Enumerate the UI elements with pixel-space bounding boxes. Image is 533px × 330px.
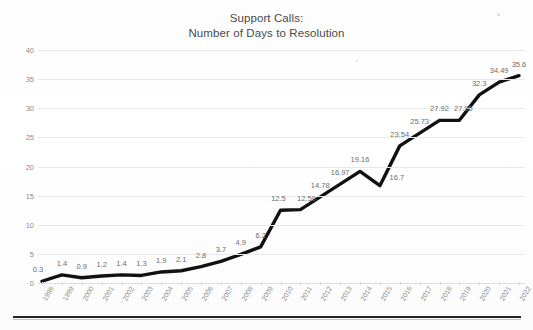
data-label-2003: 1.3 — [136, 259, 146, 268]
x-axis-tick-2011: 2011 — [300, 285, 314, 302]
scan-bottom-rule-shadow — [13, 319, 521, 320]
line-chart: Support Calls: Number of Days to Resolut… — [0, 0, 533, 330]
gridline-0 — [38, 283, 525, 284]
data-label-2001: 1.2 — [96, 260, 106, 269]
gridline-10 — [38, 225, 525, 226]
scan-speck-1 — [121, 301, 123, 303]
x-axis-tick-2021: 2021 — [498, 285, 512, 302]
scan-bottom-rule — [13, 316, 521, 318]
y-axis-tick-25: 25 — [8, 133, 34, 142]
data-label-1999: 1.4 — [57, 259, 67, 268]
y-axis-tick-10: 10 — [8, 221, 34, 230]
x-axis-tickmark-2004 — [161, 282, 162, 285]
y-axis: 0510152025303540 — [6, 50, 34, 283]
x-axis-tickmark-2002 — [122, 282, 123, 285]
x-axis-tickmark-2003 — [141, 282, 142, 285]
chart-title-line-1: Support Calls: — [0, 11, 533, 26]
data-label-2009: 6.2 — [255, 231, 265, 240]
data-label-2011: 12.59 — [297, 194, 316, 203]
x-axis-tickmark-2014 — [360, 282, 361, 285]
data-label-2007: 3.7 — [216, 245, 226, 254]
x-axis-tickmark-2017 — [420, 282, 421, 285]
x-axis-tickmark-2015 — [380, 282, 381, 285]
x-axis-tickmark-2019 — [459, 282, 460, 285]
y-axis-tick-35: 35 — [8, 75, 34, 84]
x-axis-tick-2006: 2006 — [200, 285, 214, 302]
x-axis-tickmark-2010 — [281, 282, 282, 285]
x-axis-tickmark-2020 — [479, 282, 480, 285]
y-axis-tick-40: 40 — [8, 46, 34, 55]
x-axis-tick-2002: 2002 — [121, 285, 135, 302]
x-axis-tickmark-2008 — [241, 282, 242, 285]
x-axis-tickmark-2018 — [440, 282, 441, 285]
x-axis-tickmark-2006 — [201, 282, 202, 285]
x-axis-tick-2000: 2000 — [81, 285, 95, 302]
x-axis-tick-2001: 2001 — [101, 285, 115, 302]
gridline-40 — [38, 50, 525, 51]
data-label-1998: 0.3 — [33, 265, 43, 274]
x-axis-tick-1999: 1999 — [61, 285, 75, 302]
x-axis-tick-1998: 1998 — [41, 285, 55, 302]
gridline-30 — [38, 108, 525, 109]
y-axis-tick-15: 15 — [8, 192, 34, 201]
data-label-2020: 32.3 — [472, 79, 487, 88]
data-label-2013: 16.97 — [331, 168, 350, 177]
gridline-25 — [38, 137, 525, 138]
x-axis-tickmark-2011 — [300, 282, 301, 285]
x-axis-tickmark-2009 — [261, 282, 262, 285]
y-axis-tick-5: 5 — [8, 250, 34, 259]
data-label-2002: 1.4 — [116, 259, 126, 268]
data-label-2004: 1.9 — [156, 256, 166, 265]
data-label-2021: 34.49 — [490, 66, 509, 75]
x-axis-tickmark-2016 — [400, 282, 401, 285]
data-label-2006: 2.8 — [196, 251, 206, 260]
x-axis-tick-2004: 2004 — [160, 285, 174, 302]
x-axis-tick-2019: 2019 — [459, 285, 473, 302]
x-axis-tick-2009: 2009 — [260, 285, 274, 302]
x-axis-tick-2008: 2008 — [240, 285, 254, 302]
x-axis-tickmark-2001 — [102, 282, 103, 285]
x-axis-tickmark-2005 — [181, 282, 182, 285]
x-axis-tick-2020: 2020 — [478, 285, 492, 302]
data-label-2018: 27.92 — [430, 104, 449, 113]
gridline-35 — [38, 79, 525, 80]
x-axis-tick-2012: 2012 — [319, 285, 333, 302]
x-axis-tickmark-2013 — [340, 282, 341, 285]
scan-speck-2 — [356, 60, 358, 62]
data-label-2010: 12.5 — [271, 194, 286, 203]
x-axis-tick-2016: 2016 — [399, 285, 413, 302]
data-label-2017: 25.73 — [410, 117, 429, 126]
data-label-2015: 16.7 — [390, 173, 405, 182]
chart-title-line-2: Number of Days to Resolution — [0, 26, 533, 41]
x-axis-tick-2005: 2005 — [180, 285, 194, 302]
scan-speck-0 — [497, 13, 500, 16]
data-label-2000: 0.9 — [77, 262, 87, 271]
x-axis-tick-2013: 2013 — [339, 285, 353, 302]
x-axis-tick-2007: 2007 — [220, 285, 234, 302]
data-label-2016: 23.54 — [390, 130, 409, 139]
data-label-2008: 4.9 — [236, 238, 246, 247]
x-axis-tick-2017: 2017 — [419, 285, 433, 302]
x-axis-tickmark-2000 — [82, 282, 83, 285]
x-axis-tick-2014: 2014 — [359, 285, 373, 302]
x-axis: 1998199920002001200220032004200520062007… — [38, 285, 525, 327]
data-label-2012: 14.78 — [311, 181, 330, 190]
x-axis-tickmark-2007 — [221, 282, 222, 285]
gridline-5 — [38, 254, 525, 255]
plot-area: 0.31.40.91.21.41.31.92.12.83.74.96.212.5… — [38, 50, 525, 283]
x-axis-tick-2018: 2018 — [439, 285, 453, 302]
gridline-20 — [38, 167, 525, 168]
x-axis-tick-2010: 2010 — [280, 285, 294, 302]
data-label-2022: 35.6 — [512, 60, 527, 69]
y-axis-tick-0: 0 — [8, 279, 34, 288]
y-axis-tick-20: 20 — [8, 163, 34, 172]
chart-title: Support Calls: Number of Days to Resolut… — [0, 11, 533, 41]
data-label-2019: 27.95 — [454, 104, 473, 113]
x-axis-tickmark-2012 — [320, 282, 321, 285]
x-axis-tick-2003: 2003 — [141, 285, 155, 302]
x-axis-tickmark-2021 — [499, 282, 500, 285]
x-axis-tickmark-1999 — [62, 282, 63, 285]
data-label-2014: 19.16 — [351, 155, 370, 164]
x-axis-tickmark-1998 — [42, 282, 43, 285]
x-axis-tick-2022: 2022 — [518, 285, 532, 302]
